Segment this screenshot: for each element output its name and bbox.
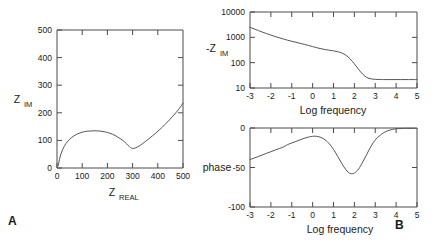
phase-x-ticklabels: -3 -2 -1 0 1 2 3 4 5 <box>246 210 419 220</box>
y-ticklabel: 400 <box>38 53 52 63</box>
x-ticklabel: -2 <box>267 210 275 220</box>
x-ticklabel: -3 <box>246 91 254 101</box>
x-ticklabel: 100 <box>75 171 89 181</box>
magnitude-x-ticks <box>250 12 417 88</box>
nyquist-y-ticklabels: 0 100 200 300 400 500 <box>38 25 52 173</box>
panel-letter-b: B <box>395 218 404 232</box>
nyquist-panel: 0 100 200 300 400 500 0 100 200 300 400 … <box>0 0 200 242</box>
magnitude-plot-frame <box>250 12 417 88</box>
phase-x-axis-title: Log frequency <box>307 223 374 235</box>
x-ticklabel: 0 <box>310 91 315 101</box>
magnitude-y-axis-title: -Z IM <box>206 42 228 58</box>
x-axis-title-sub: REAL <box>119 193 139 202</box>
y-ticklabel: 300 <box>38 80 52 90</box>
x-ticklabel: 5 <box>415 210 420 220</box>
y-axis-title-sub: IM <box>24 100 32 109</box>
y-axis-title-sub: IM <box>220 49 228 58</box>
phase-y-ticks <box>250 128 417 207</box>
x-ticklabel: 1 <box>331 91 336 101</box>
y-ticklabel: 0 <box>240 123 245 133</box>
y-ticklabel: 10 <box>236 83 246 93</box>
y-ticklabel: -50 <box>233 163 246 173</box>
x-ticks <box>57 30 183 168</box>
y-ticklabel: -100 <box>228 202 245 212</box>
nyquist-y-axis-title: Z IM <box>14 93 33 109</box>
x-ticklabel: -3 <box>246 210 254 220</box>
bode-panel: 10 100 1000 10000 -3 -2 -1 0 1 2 3 4 5 -… <box>185 0 436 242</box>
x-ticklabel: -1 <box>288 91 296 101</box>
bode-magnitude-data-curve <box>250 27 417 79</box>
y-axis-title-main: -Z <box>206 42 216 54</box>
plot-frame <box>57 30 183 168</box>
bode-magnitude-axes <box>250 12 417 88</box>
magnitude-y-ticks <box>250 12 417 88</box>
nyquist-data-curve <box>58 103 183 166</box>
phase-plot-frame <box>250 128 417 207</box>
magnitude-x-ticklabels: -3 -2 -1 0 1 2 3 4 5 <box>246 91 419 101</box>
x-ticklabel: -1 <box>288 210 296 220</box>
x-ticklabel: -2 <box>267 91 275 101</box>
x-ticklabel: 5 <box>415 91 420 101</box>
x-ticklabel: 200 <box>100 171 114 181</box>
bode-phase-data-curve <box>250 128 417 173</box>
nyquist-x-axis-title: Z REAL <box>109 186 139 202</box>
bode-phase-axes <box>250 128 417 207</box>
panel-letter-a: A <box>8 214 17 228</box>
x-ticklabel: 300 <box>126 171 140 181</box>
y-ticklabel: 500 <box>38 25 52 35</box>
nyquist-svg: 0 100 200 300 400 500 0 100 200 300 400 … <box>0 0 200 242</box>
nyquist-x-ticklabels: 0 100 200 300 400 500 <box>55 171 191 181</box>
phase-y-axis-title: phase <box>203 161 232 173</box>
x-axis-title-main: Z <box>109 186 116 198</box>
y-ticks <box>57 30 183 168</box>
phase-x-ticks <box>250 128 417 207</box>
y-ticklabel: 100 <box>231 58 245 68</box>
x-ticklabel: 1 <box>331 210 336 220</box>
x-ticklabel: 4 <box>394 91 399 101</box>
y-ticklabel: 10000 <box>221 7 245 17</box>
y-ticklabel: 100 <box>38 135 52 145</box>
nyquist-axes <box>57 30 183 168</box>
x-ticklabel: 2 <box>352 210 357 220</box>
magnitude-x-axis-title: Log frequency <box>300 104 367 116</box>
x-ticklabel: 3 <box>373 210 378 220</box>
x-ticklabel: 400 <box>151 171 165 181</box>
bode-svg: 10 100 1000 10000 -3 -2 -1 0 1 2 3 4 5 -… <box>185 0 436 242</box>
y-ticklabel: 0 <box>47 163 52 173</box>
figure-container: 0 100 200 300 400 500 0 100 200 300 400 … <box>0 0 436 242</box>
y-axis-title-main: Z <box>14 93 21 105</box>
x-ticklabel: 0 <box>55 171 60 181</box>
y-ticklabel: 1000 <box>226 32 245 42</box>
y-ticklabel: 200 <box>38 108 52 118</box>
x-ticklabel: 0 <box>310 210 315 220</box>
x-ticklabel: 3 <box>373 91 378 101</box>
x-ticklabel: 2 <box>352 91 357 101</box>
